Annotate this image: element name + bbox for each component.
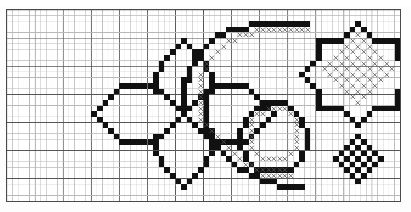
pattern-sheet [0, 0, 411, 212]
filled-square-cell [400, 61, 401, 67]
filled-square-cell [378, 156, 384, 162]
motif-checkerboard-diamond [7, 10, 400, 201]
filled-square-cell [372, 162, 378, 168]
filled-square-cell [355, 179, 361, 185]
scan-paper-edge [0, 0, 411, 6]
cross-stitch-grid [6, 9, 401, 202]
filled-square-cell [367, 167, 373, 173]
filled-square-cell [400, 83, 401, 89]
stitch-cells-layer [7, 10, 400, 201]
filled-square-cell [361, 173, 367, 179]
